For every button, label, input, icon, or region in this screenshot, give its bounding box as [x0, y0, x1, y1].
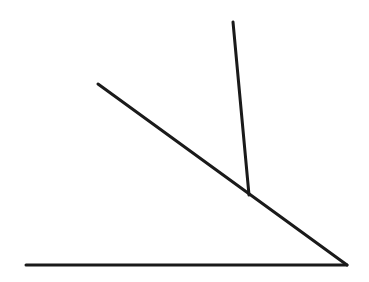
upright-line — [233, 22, 249, 195]
geometry-diagram — [0, 0, 369, 282]
diagonal-line — [98, 84, 347, 265]
